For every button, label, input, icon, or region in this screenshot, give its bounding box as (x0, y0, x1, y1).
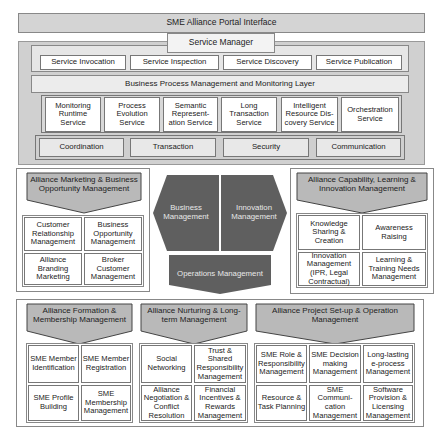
customer-relationship-management: Customer Relationship Management (24, 217, 82, 251)
infra-label: Transaction (153, 143, 193, 152)
service-publication: Service Publication (316, 55, 402, 70)
cell-label: SME Role & Responsibility Management (257, 351, 306, 377)
cell-label: Knowledge Sharing & Creation (299, 220, 359, 246)
service-label: Long Transaction Service (222, 102, 276, 128)
cell-label: SME Communi-cation Management (310, 386, 360, 420)
cell-label: Business Opportunity Management (85, 221, 141, 247)
cell-label: Social Networking (142, 355, 191, 372)
knowledge-sharing-creation: Knowledge Sharing & Creation (298, 215, 360, 250)
transaction: Transaction (130, 138, 216, 157)
awareness-raising: Awareness Raising (362, 215, 426, 250)
financial-incentives-rewards-management: Financial Incentives & Rewards Managemen… (194, 385, 246, 421)
social-networking: Social Networking (141, 345, 192, 383)
marketing-header: Alliance Marketing & Business Opportunit… (26, 172, 142, 214)
bpm-layer-bar: Business Process Management and Monitori… (31, 75, 409, 93)
marketing-title: Alliance Marketing & Business Opportunit… (26, 175, 142, 193)
cell-label: SME Membership Management (82, 390, 130, 416)
communication: Communication (316, 138, 401, 157)
security: Security (223, 138, 309, 157)
service-label: Service Publication (326, 58, 392, 67)
service-manager-label: Service Manager (189, 38, 253, 48)
long-transaction-service: Long Transaction Service (221, 97, 277, 132)
cell-label: Software Provision & Licensing Managemen… (364, 386, 412, 420)
sme-decision-making-management: SME Decision making Management (309, 345, 361, 383)
orchestration-service: Orchestration Service (341, 97, 399, 132)
monitoring-runtime-service: Monitoring Runtime Service (45, 97, 101, 132)
trust-shared-responsibility-management: Trust & Shared Responsibility Management (194, 345, 246, 383)
cell-label: Alliance Negotiation & Conflict Resoluti… (142, 386, 191, 420)
learning-training-needs-management: Learning & Training Needs Management (362, 252, 426, 286)
cell-label: SME Decision making Management (310, 351, 360, 377)
project-header: Alliance Project Set-up & Operation Mana… (255, 303, 415, 345)
business-management-label: Business Management (153, 204, 219, 222)
cell-label: Innovation Management (IPR, Legal Contra… (299, 252, 359, 286)
service-label: Service Inspection (143, 58, 207, 67)
semantic-representation-service: Semantic Represent-ation Service (163, 97, 218, 132)
cell-label: Trust & Shared Responsibility Management (195, 347, 245, 381)
business-management-block: Business Management (153, 175, 219, 251)
sme-member-registration: SME Member Registration (81, 345, 131, 383)
business-opportunity-management: Business Opportunity Management (84, 217, 142, 251)
sme-member-identification: SME Member Identification (28, 345, 79, 383)
cell-label: Alliance Branding Marketing (25, 256, 81, 282)
cell-label: Customer Relationship Management (25, 221, 81, 247)
infra-label: Security (252, 143, 280, 152)
cell-label: Awareness Raising (363, 224, 425, 241)
infra-label: Communication (331, 143, 385, 152)
nurturing-title: Alliance Nurturing & Long-term Managemen… (140, 306, 248, 324)
long-lasting-e-process-management: Long-lasting e-process Management (363, 345, 413, 383)
service-invocation: Service Invocation (40, 55, 126, 70)
resource-task-planning: Resource & Task Planning (256, 385, 307, 421)
cell-label: SME Member Identification (29, 355, 78, 372)
formation-header: Alliance Formation & Membership Manageme… (26, 303, 133, 345)
sme-role-responsibility-management: SME Role & Responsibility Management (256, 345, 307, 383)
cell-label: Financial Incentives & Rewards Managemen… (195, 386, 245, 420)
service-inspection: Service Inspection (130, 55, 219, 70)
sme-profile-building: SME Profile Building (28, 385, 79, 421)
operations-management-label: Operations Management (177, 270, 263, 279)
innovation-management-block: Innovation Management (221, 175, 287, 251)
service-label: Intelligent Resource Dis-covery Service (282, 102, 337, 128)
bpm-layer-title: Business Process Management and Monitori… (125, 80, 315, 89)
innovation-management-label: Innovation Management (221, 204, 287, 222)
innovation-management-ipr: Innovation Management (IPR, Legal Contra… (298, 252, 360, 286)
service-label: Service Invocation (51, 58, 115, 67)
cell-label: SME Member Registration (82, 355, 130, 372)
coordination: Coordination (39, 138, 124, 157)
service-label: Monitoring Runtime Service (46, 102, 100, 128)
operations-management-block: Operations Management (169, 255, 271, 294)
nurturing-header: Alliance Nurturing & Long-term Managemen… (140, 303, 248, 345)
sme-membership-management: SME Membership Management (81, 385, 131, 421)
service-discovery: Service Discovery (223, 55, 312, 70)
cell-label: Resource & Task Planning (257, 394, 306, 411)
sme-communication-management: SME Communi-cation Management (309, 385, 361, 421)
capability-header: Alliance Capability, Learning & Innovati… (296, 172, 428, 214)
service-manager-title: Service Manager (167, 33, 275, 53)
formation-title: Alliance Formation & Membership Manageme… (26, 306, 133, 324)
broker-customer-management: Broker Customer Management (84, 253, 142, 285)
intelligent-resource-discovery-service: Intelligent Resource Dis-covery Service (281, 97, 338, 132)
process-evolution-service: Process Evolution Service (104, 97, 160, 132)
alliance-negotiation-conflict-resolution: Alliance Negotiation & Conflict Resoluti… (141, 385, 192, 421)
software-provision-licensing-management: Software Provision & Licensing Managemen… (363, 385, 413, 421)
infra-label: Coordination (59, 143, 103, 152)
project-title: Alliance Project Set-up & Operation Mana… (255, 306, 415, 324)
service-label: Orchestration Service (342, 106, 398, 123)
cell-label: Broker Customer Management (85, 256, 141, 282)
portal-title: SME Alliance Portal Interface (166, 18, 276, 28)
cell-label: Long-lasting e-process Management (364, 351, 412, 377)
capability-title: Alliance Capability, Learning & Innovati… (296, 175, 428, 193)
service-label: Process Evolution Service (105, 102, 159, 128)
alliance-branding-marketing: Alliance Branding Marketing (24, 253, 82, 285)
portal-interface-bar: SME Alliance Portal Interface (18, 13, 425, 33)
cell-label: Learning & Training Needs Management (363, 256, 425, 282)
service-label: Service Discovery (236, 58, 298, 67)
cell-label: SME Profile Building (29, 394, 78, 411)
service-label: Semantic Represent-ation Service (164, 102, 217, 128)
